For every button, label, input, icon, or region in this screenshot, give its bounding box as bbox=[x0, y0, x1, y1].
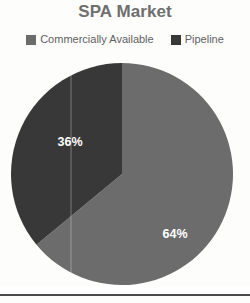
legend-swatch-commercially-available bbox=[26, 35, 36, 45]
legend-swatch-pipeline bbox=[171, 35, 181, 45]
pie-label-commercially-available: 64% bbox=[162, 227, 187, 241]
pie-label-pipeline: 36% bbox=[57, 135, 82, 149]
legend-label-pipeline: Pipeline bbox=[185, 33, 224, 46]
page-bottom-margin bbox=[0, 286, 250, 294]
chart-title: SPA Market bbox=[0, 1, 250, 23]
legend-label-commercially-available: Commercially Available bbox=[40, 33, 154, 46]
chart-legend: Commercially Available Pipeline bbox=[0, 33, 250, 46]
legend-item-pipeline[interactable]: Pipeline bbox=[171, 33, 224, 46]
pie-chart: 64% 36% bbox=[11, 63, 233, 285]
pie-chart-svg: 64% 36% bbox=[11, 63, 233, 285]
legend-item-commercially-available[interactable]: Commercially Available bbox=[26, 33, 154, 46]
scan-artifact-horizontal-rule bbox=[0, 294, 250, 296]
